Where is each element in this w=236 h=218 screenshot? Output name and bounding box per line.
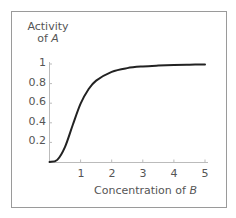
y-axis-label: Activity of A (27, 21, 69, 45)
x-tick-label-5: 5 (198, 168, 212, 180)
x-tick-label-3: 3 (136, 168, 150, 180)
x-tick-label-2: 2 (105, 168, 119, 180)
x-axis-label: Concentration of B (94, 185, 197, 197)
y-axis-label-var: A (51, 32, 59, 45)
y-tick-label-0.2: 0.2 (24, 135, 46, 147)
y-axis-label-line2: of A (27, 33, 69, 45)
x-axis-label-var: B (189, 184, 197, 197)
x-tick-label-4: 4 (167, 168, 181, 180)
y-tick-label-0.6: 0.6 (24, 96, 46, 108)
y-tick-label-0.4: 0.4 (24, 116, 46, 128)
y-tick-label-0.8: 0.8 (24, 77, 46, 89)
y-axis-label-prefix: of (37, 32, 51, 45)
x-tick-label-1: 1 (74, 168, 88, 180)
y-tick-label-1: 1 (24, 57, 46, 69)
x-axis-label-prefix: Concentration of (94, 184, 189, 197)
activity-curve (50, 64, 206, 162)
x-tick-marks (81, 160, 205, 163)
